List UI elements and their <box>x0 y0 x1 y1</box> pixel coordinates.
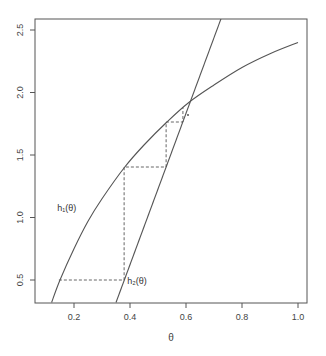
x-axis-title: θ <box>168 332 174 343</box>
x-tick-label: 0.4 <box>124 312 137 322</box>
plot-frame <box>35 19 307 303</box>
x-axis: 0.20.40.60.81.0 <box>68 303 305 322</box>
y-axis: 0.51.01.52.02.5 <box>15 24 35 287</box>
cobweb-chart: 0.20.40.60.81.0 0.51.01.52.02.5 h₁(θ)h₂(… <box>0 0 326 356</box>
x-tick-label: 0.2 <box>68 312 81 322</box>
y-tick-label: 2.5 <box>15 24 25 37</box>
y-tick-label: 0.5 <box>15 274 25 287</box>
h2-line <box>116 19 221 303</box>
y-tick-label: 2.0 <box>15 86 25 99</box>
series-layer <box>52 19 298 303</box>
annotations: h₁(θ)h₂(θ) <box>57 203 147 286</box>
h1-label: h₁(θ) <box>57 203 76 213</box>
h2-label: h₂(θ) <box>127 276 147 286</box>
x-tick-label: 0.8 <box>236 312 249 322</box>
y-tick-label: 1.5 <box>15 149 25 162</box>
h1-curve <box>52 43 298 303</box>
x-tick-label: 0.6 <box>180 312 193 322</box>
x-tick-label: 1.0 <box>292 312 305 322</box>
plot-border <box>35 19 307 303</box>
cobweb-path <box>59 108 183 281</box>
iterate-point <box>187 114 189 116</box>
y-tick-label: 1.0 <box>15 211 25 224</box>
